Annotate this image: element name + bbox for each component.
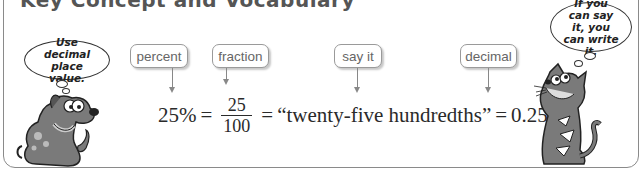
eq-equals: = — [261, 103, 273, 128]
eq-equals: = — [495, 103, 507, 128]
equation: 25% = 25 100 = “twenty-five hundredths” … — [158, 90, 548, 140]
section-title: Key Concept and Vocabulary — [20, 0, 355, 12]
label-text: percent — [136, 49, 181, 64]
arrow-line — [172, 68, 173, 88]
dog-bubble-body: Use decimal place value. — [24, 40, 110, 80]
label-text: decimal — [465, 49, 512, 64]
arrow-line — [357, 68, 358, 88]
cat-bubble-body: If you can say it, you can write it. — [550, 2, 632, 52]
label-fraction: fraction — [212, 44, 269, 68]
label-percent: percent — [130, 44, 188, 68]
eq-words: “twenty-five hundredths” — [277, 103, 491, 128]
eq-percent: 25% — [158, 103, 197, 128]
thought-puff — [584, 52, 596, 60]
arrow-line — [488, 68, 489, 88]
dog-thought-text: Use decimal place value. — [36, 36, 98, 84]
label-text: say it — [342, 49, 374, 64]
dog-icon — [14, 86, 100, 168]
fraction-denominator: 100 — [221, 116, 252, 136]
label-say-it: say it — [334, 44, 382, 68]
cat-icon — [530, 60, 602, 168]
eq-fraction: 25 100 — [221, 95, 252, 136]
label-decimal: decimal — [460, 44, 517, 68]
arrow-down-icon — [223, 79, 229, 85]
fraction-numerator: 25 — [226, 95, 248, 115]
label-text: fraction — [218, 49, 262, 64]
cat-thought-text: If you can say it, you can write it. — [562, 0, 620, 57]
eq-equals: = — [201, 103, 213, 128]
